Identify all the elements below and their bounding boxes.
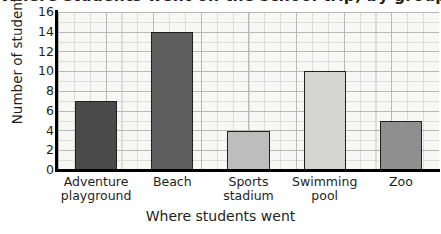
x-tick-label-line: Sports: [223, 175, 274, 189]
bar: [75, 101, 117, 170]
y-axis-tick-labels: 0246810121416: [30, 12, 54, 170]
y-tick-label: 14: [30, 26, 54, 39]
y-tick-label: 12: [30, 45, 54, 58]
bar: [380, 121, 422, 170]
x-tick-label: Adventureplayground: [61, 175, 132, 203]
x-tick-label-line: Swimming: [292, 175, 357, 189]
x-tick-label-line: Zoo: [389, 175, 413, 189]
y-tick-label: 0: [30, 164, 54, 177]
x-tick-label-line: stadium: [223, 189, 274, 203]
x-axis-line: [55, 169, 440, 172]
y-axis-line: [55, 10, 58, 172]
x-tick-label-line: Adventure: [61, 175, 132, 189]
x-tick-label-line: pool: [292, 189, 357, 203]
x-tick-label: Beach: [153, 175, 192, 189]
bar-chart-figure: Where students went on the school trip, …: [0, 0, 441, 234]
x-tick-label-line: Beach: [153, 175, 192, 189]
y-tick-label: 6: [30, 105, 54, 118]
bars-layer: [58, 12, 439, 170]
x-tick-label-line: playground: [61, 189, 132, 203]
y-tick-label: 2: [30, 144, 54, 157]
bar: [151, 32, 193, 170]
x-tick-label: Zoo: [389, 175, 413, 189]
y-tick-label: 4: [30, 124, 54, 137]
x-tick-label: Swimmingpool: [292, 175, 357, 203]
bar: [227, 131, 269, 171]
y-tick-label: 8: [30, 85, 54, 98]
bar: [304, 71, 346, 170]
y-tick-label: 16: [30, 6, 54, 19]
x-axis-tick-labels: AdventureplaygroundBeachSportsstadiumSwi…: [58, 175, 439, 205]
y-tick-label: 10: [30, 65, 54, 78]
plot-area: [58, 12, 439, 170]
chart-title: Where students went on the school trip, …: [0, 0, 441, 7]
y-axis-title: Number of students: [9, 0, 25, 137]
x-axis-title: Where students went: [0, 208, 441, 224]
x-tick-label: Sportsstadium: [223, 175, 274, 203]
